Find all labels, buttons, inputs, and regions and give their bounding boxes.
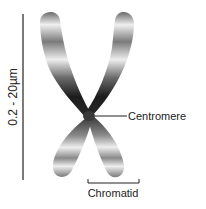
- centromere: [83, 111, 95, 121]
- chromosome-diagram: 0.2 - 20µm Centromere Chromatid: [0, 0, 206, 209]
- chromatid-label: Chromatid: [88, 187, 139, 199]
- scale-label: 0.2 - 20µm: [6, 68, 20, 126]
- lower-left-arm: [53, 118, 92, 177]
- chromosome-figure: 0.2 - 20µm Centromere Chromatid: [0, 0, 206, 209]
- centromere-label: Centromere: [128, 110, 186, 122]
- upper-left-arm: [40, 12, 90, 118]
- chromatid-bracket: [88, 179, 139, 183]
- lower-right-arm: [88, 117, 124, 177]
- upper-right-arm: [86, 12, 134, 118]
